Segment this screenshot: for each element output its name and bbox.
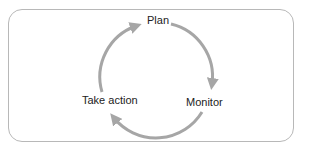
- node-plan: Plan: [147, 14, 169, 26]
- node-monitor: Monitor: [186, 96, 223, 108]
- node-take-action: Take action: [82, 94, 138, 106]
- arrow-take-action-to-plan: [100, 26, 136, 92]
- arrow-plan-to-monitor: [171, 24, 213, 84]
- arrow-monitor-to-take-action: [114, 112, 202, 138]
